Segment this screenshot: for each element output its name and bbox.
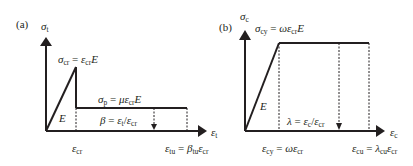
panel-b-y-arrowhead <box>239 30 251 40</box>
panel-b-x-tick-ecu: εcu = λcuεcr <box>352 143 397 156</box>
panel-a-y-arrowhead <box>40 37 52 46</box>
panel-a-slope-label: E <box>59 113 66 124</box>
panel-b-peak-label: σcy = ωεcrE <box>255 23 304 36</box>
panel-b-tag: (b) <box>219 22 232 33</box>
panel-a-x-axis-label: εt <box>211 127 217 140</box>
panel-a-ratio-label: β = εt/εcr <box>100 115 137 128</box>
panel-a-x-tick-etu: εtu = βtuεcr <box>165 143 208 156</box>
panel-a-plateau-label: σp = μεcrE <box>98 94 141 107</box>
panel-a-y-axis-label: σt <box>41 21 49 34</box>
panel-a-peak-label: σcr = εcrE <box>58 54 98 67</box>
panel-a-x-arrowhead <box>198 125 207 137</box>
panel-b-slope-label: E <box>260 101 267 112</box>
panel-b-x-arrowhead <box>376 125 385 137</box>
panel-b-x-axis-label: εc <box>390 127 398 140</box>
panel-b-ratio-label: λ = εc/εcr <box>287 116 324 129</box>
panel-a-x-tick-ecr: εcr <box>72 143 82 156</box>
panel-b-y-axis-label: σc <box>240 11 249 24</box>
panel-b-x-tick-ecy: εcy = ωεcr <box>262 143 303 156</box>
panel-a-tag: (a) <box>16 19 28 30</box>
